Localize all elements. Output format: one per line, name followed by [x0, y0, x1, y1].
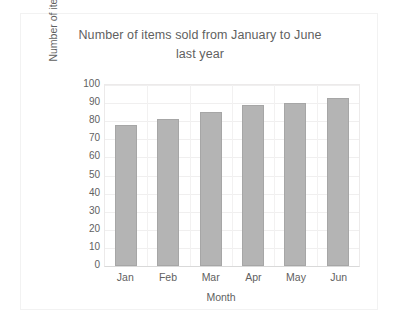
- bar-jan[interactable]: [115, 125, 137, 266]
- y-axis-tick-label: 30: [82, 206, 100, 216]
- bar-slot: [274, 85, 316, 266]
- y-axis-title: Number of items sold: [47, 0, 61, 92]
- y-axis-tick-label: 70: [82, 133, 100, 143]
- x-axis-tick-label: Jan: [104, 271, 147, 283]
- y-axis-tick-labels: 1009080706050403020100: [82, 84, 100, 267]
- plot-area: [104, 84, 360, 267]
- chart-title-line-2: last year: [35, 45, 365, 64]
- x-axis-tick-labels: JanFebMarAprMayJun: [104, 271, 360, 283]
- y-axis-tick-label: 90: [82, 97, 100, 107]
- plot-wrapper: 1009080706050403020100: [82, 84, 360, 267]
- chart-figure: Number of items sold from January to Jun…: [20, 13, 378, 310]
- bar-slot: [190, 85, 232, 266]
- y-axis-tick-label: 80: [82, 115, 100, 125]
- bar-slot: [147, 85, 189, 266]
- bar-mar[interactable]: [200, 112, 222, 266]
- x-axis-tick-label: Mar: [189, 271, 232, 283]
- chart-title: Number of items sold from January to Jun…: [35, 26, 365, 64]
- y-axis-tick-label: 60: [82, 151, 100, 161]
- y-axis-tick-label: 100: [82, 79, 100, 89]
- chart-title-line-1: Number of items sold from January to Jun…: [35, 26, 365, 45]
- bar-jun[interactable]: [327, 98, 349, 266]
- y-axis-tick-label: 40: [82, 188, 100, 198]
- x-axis-title: Month: [82, 291, 360, 303]
- y-axis-tick-label: 50: [82, 170, 100, 180]
- bar-may[interactable]: [284, 103, 306, 266]
- bar-slot: [232, 85, 274, 266]
- bar-apr[interactable]: [242, 105, 264, 266]
- x-axis-tick-label: Apr: [232, 271, 275, 283]
- y-axis-tick-label: 20: [82, 224, 100, 234]
- y-axis-tick-label: 0: [82, 260, 100, 270]
- bar-slot: [105, 85, 147, 266]
- x-axis-tick-label: May: [275, 271, 318, 283]
- bar-feb[interactable]: [157, 119, 179, 266]
- bar-series: [105, 85, 359, 266]
- x-axis-tick-label: Feb: [147, 271, 190, 283]
- y-axis-tick-label: 10: [82, 242, 100, 252]
- x-axis-tick-label: Jun: [317, 271, 360, 283]
- bar-slot: [317, 85, 359, 266]
